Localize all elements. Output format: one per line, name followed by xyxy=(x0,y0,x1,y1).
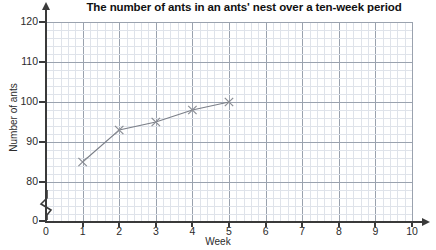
plot-area xyxy=(46,22,412,222)
grid-line xyxy=(90,22,91,222)
y-axis-arrow-icon xyxy=(42,2,50,10)
grid-line xyxy=(353,22,354,222)
grid-line xyxy=(390,22,391,222)
grid-line xyxy=(46,54,412,55)
grid-line xyxy=(75,22,76,222)
grid-line xyxy=(46,126,412,127)
grid-line xyxy=(368,22,369,222)
grid-line xyxy=(83,22,84,222)
grid-line xyxy=(163,22,164,222)
grid-line xyxy=(46,78,412,79)
grid-line xyxy=(46,142,412,143)
grid-lines xyxy=(46,22,412,222)
grid-line xyxy=(105,22,106,222)
grid-line xyxy=(178,22,179,222)
grid-line xyxy=(46,134,412,135)
grid-line xyxy=(302,22,303,222)
grid-line xyxy=(46,70,412,71)
y-axis-tick xyxy=(39,220,46,222)
grid-line xyxy=(317,22,318,222)
y-axis-tick-label: 80 xyxy=(0,175,38,187)
grid-line xyxy=(346,22,347,222)
x-axis-tick-label: 1 xyxy=(71,225,95,237)
grid-line xyxy=(46,190,412,191)
grid-line xyxy=(46,182,412,183)
grid-line xyxy=(251,22,252,222)
y-axis-tick xyxy=(39,21,46,23)
chart-container: The number of ants in an ants' nest over… xyxy=(0,0,436,250)
grid-line xyxy=(207,22,208,222)
y-axis-tick-label: 110 xyxy=(0,55,38,67)
grid-line xyxy=(222,22,223,222)
grid-line xyxy=(200,22,201,222)
chart-title: The number of ants in an ants' nest over… xyxy=(64,1,424,13)
grid-line xyxy=(46,150,412,151)
y-axis-tick xyxy=(39,181,46,183)
grid-line xyxy=(280,22,281,222)
grid-line xyxy=(244,22,245,222)
grid-line xyxy=(214,22,215,222)
grid-line xyxy=(61,22,62,222)
grid-line xyxy=(258,22,259,222)
grid-line xyxy=(46,110,412,111)
grid-line xyxy=(170,22,171,222)
x-axis-tick-label: 7 xyxy=(290,225,314,237)
grid-line xyxy=(46,174,412,175)
y-axis-tick xyxy=(39,61,46,63)
y-axis-break-icon xyxy=(38,190,54,220)
grid-line xyxy=(148,22,149,222)
grid-line xyxy=(141,22,142,222)
x-axis-tick-label: 0 xyxy=(34,225,58,237)
grid-line xyxy=(46,198,412,199)
grid-line xyxy=(375,22,376,222)
grid-line xyxy=(236,22,237,222)
y-axis-tick xyxy=(39,101,46,103)
grid-line xyxy=(46,86,412,87)
grid-line xyxy=(46,30,412,31)
x-axis-title: Week xyxy=(178,236,258,247)
y-axis-tick-label: 90 xyxy=(0,135,38,147)
grid-line xyxy=(46,38,412,39)
grid-line xyxy=(310,22,311,222)
grid-line xyxy=(46,118,412,119)
grid-line xyxy=(324,22,325,222)
grid-line xyxy=(383,22,384,222)
y-axis-title: Number of ants xyxy=(8,68,19,168)
grid-line xyxy=(412,22,413,222)
grid-line xyxy=(46,158,412,159)
grid-line xyxy=(229,22,230,222)
x-axis-tick-label: 9 xyxy=(363,225,387,237)
grid-line xyxy=(46,62,412,63)
grid-line xyxy=(68,22,69,222)
grid-line xyxy=(288,22,289,222)
grid-line xyxy=(273,22,274,222)
grid-line xyxy=(46,206,412,207)
grid-line xyxy=(119,22,120,222)
grid-line xyxy=(331,22,332,222)
grid-line xyxy=(134,22,135,222)
grid-line xyxy=(397,22,398,222)
grid-line xyxy=(46,94,412,95)
grid-line xyxy=(405,22,406,222)
x-axis-tick-label: 8 xyxy=(327,225,351,237)
y-axis-tick-label: 0 xyxy=(0,214,38,226)
grid-line xyxy=(192,22,193,222)
y-axis-tick xyxy=(39,141,46,143)
x-axis-tick-label: 10 xyxy=(400,225,424,237)
x-axis-tick-label: 2 xyxy=(107,225,131,237)
grid-line xyxy=(46,166,412,167)
grid-line xyxy=(127,22,128,222)
x-axis-line xyxy=(45,221,423,223)
grid-line xyxy=(97,22,98,222)
y-axis-tick-label: 100 xyxy=(0,95,38,107)
grid-line xyxy=(361,22,362,222)
grid-line xyxy=(46,102,412,103)
grid-line xyxy=(46,214,412,215)
grid-line xyxy=(46,46,412,47)
grid-line xyxy=(112,22,113,222)
grid-line xyxy=(156,22,157,222)
grid-line xyxy=(266,22,267,222)
x-axis-tick-label: 3 xyxy=(144,225,168,237)
grid-line xyxy=(339,22,340,222)
grid-line xyxy=(46,22,412,23)
